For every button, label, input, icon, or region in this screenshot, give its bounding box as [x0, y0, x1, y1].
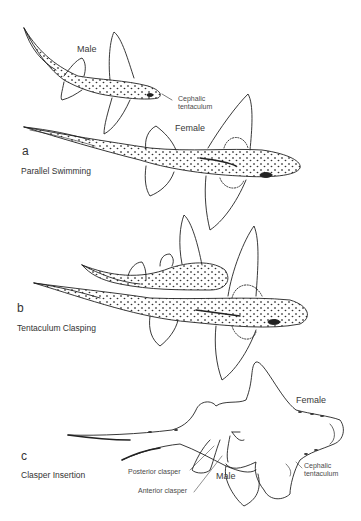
panel-b-female-shark — [34, 226, 307, 380]
label-female-c: Female — [296, 395, 326, 405]
label-cephalic-tentaculum-c: Cephalic tentaculum — [304, 462, 338, 478]
label-posterior-clasper: Posterior clasper — [128, 468, 181, 476]
panel-letter-a: a — [22, 144, 29, 158]
label-line1: Cephalic — [178, 95, 212, 103]
panel-c-female-shark — [68, 362, 343, 499]
panel-letter-b: b — [17, 301, 24, 315]
label-line2: tentaculum — [178, 103, 212, 111]
panel-letter-c: c — [21, 449, 27, 463]
label-male-c: Male — [216, 471, 236, 481]
label-line1: Cephalic — [304, 462, 338, 470]
panel-title-a: Parallel Swimming — [21, 166, 91, 176]
label-line2: tentaculum — [304, 470, 338, 478]
panel-title-c: Clasper Insertion — [21, 470, 85, 480]
label-cephalic-tentaculum-a: Cephalic tentaculum — [178, 95, 212, 111]
panel-a-female-shark — [24, 94, 300, 230]
panel-a-male-shark — [24, 28, 172, 134]
shark-mating-illustration — [0, 0, 361, 521]
panel-b-male-shark — [82, 215, 228, 290]
label-male-a: Male — [77, 44, 97, 54]
label-anterior-clasper: Anterior clasper — [138, 487, 187, 495]
label-female-a: Female — [175, 123, 205, 133]
panel-title-b: Tentaculum Clasping — [17, 323, 96, 333]
